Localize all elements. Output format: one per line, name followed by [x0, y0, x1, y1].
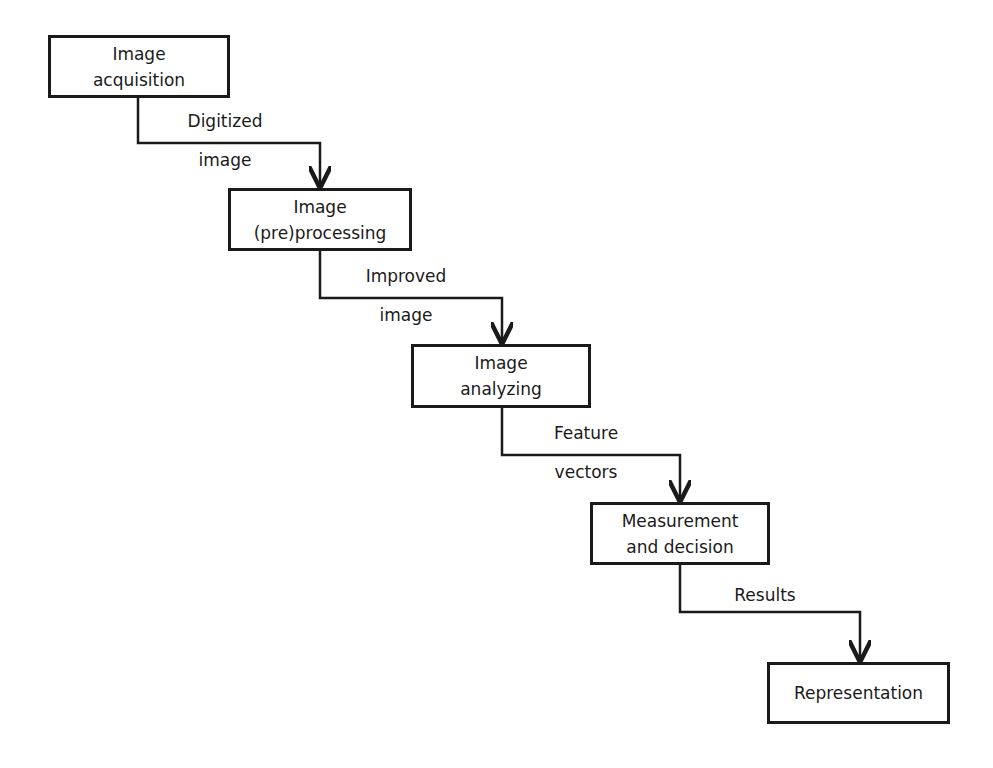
edge-n2-n3 [320, 250, 502, 342]
node-label-line: Measurement [622, 508, 739, 534]
node-label-line: and decision [626, 534, 733, 560]
node-label-line: (pre)processing [254, 220, 387, 246]
edge-label-top: Feature [536, 423, 636, 443]
edge-label-bottom: vectors [536, 462, 636, 482]
node-image-acquisition: Image acquisition [48, 35, 230, 98]
node-label-line: Image [112, 41, 165, 67]
edge-label-bottom: image [356, 305, 456, 325]
node-representation: Representation [767, 662, 950, 724]
node-label-line: acquisition [93, 67, 185, 93]
edge-label-top: Digitized [175, 111, 275, 131]
edge-n3-n4 [502, 407, 680, 500]
node-label-line: Representation [794, 680, 923, 706]
edge-label-top: Results [715, 585, 815, 605]
node-label-line: analyzing [460, 376, 542, 402]
node-image-analyzing: Image analyzing [411, 344, 591, 408]
node-image-preprocessing: Image (pre)processing [228, 188, 412, 251]
edge-label-bottom: image [175, 150, 275, 170]
node-label-line: Image [474, 350, 527, 376]
edge-n4-n5 [680, 564, 860, 660]
edge-label-top: Improved [356, 266, 456, 286]
node-measurement-decision: Measurement and decision [590, 502, 770, 565]
node-label-line: Image [293, 194, 346, 220]
